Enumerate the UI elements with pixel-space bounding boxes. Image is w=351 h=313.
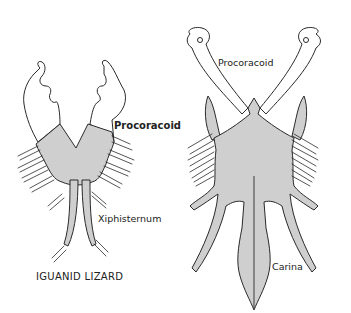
- lizard-xiphisternum-label: Xiphisternum: [98, 214, 161, 224]
- lizard-pectoral-girdle: [18, 60, 134, 262]
- bird-procoracoid-label: Procoracoid: [218, 58, 274, 68]
- bird-ribs-left: [188, 134, 214, 186]
- bird-left-lateral-process: [205, 96, 220, 140]
- bird-right-foramen: [304, 38, 309, 43]
- bird-left-foramen: [198, 38, 203, 43]
- bird-ribs-right: [292, 134, 318, 186]
- lizard-xiphisternum-right: [82, 180, 96, 246]
- lizard-procoracoid-label: Procoracoid: [114, 121, 181, 131]
- lizard-xiphisternum-left: [64, 180, 78, 246]
- bird-right-procoracoid: [260, 27, 321, 114]
- bird-carina-label: Carina: [272, 262, 303, 272]
- bird-left-procoracoid: [187, 27, 248, 114]
- bird-right-lateral-process: [292, 96, 307, 140]
- lizard-caption: IGUANID LIZARD: [36, 272, 123, 282]
